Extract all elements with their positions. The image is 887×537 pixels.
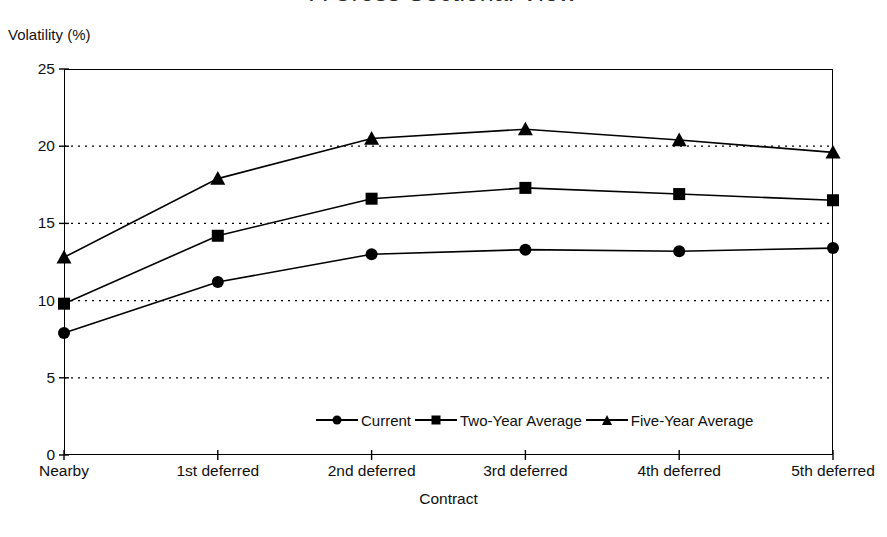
legend-label: Two-Year Average: [457, 412, 586, 429]
circle-marker-icon: [316, 413, 358, 427]
data-point: [519, 182, 531, 194]
chart-legend: CurrentTwo-Year AverageFive-Year Average: [314, 409, 759, 431]
plot-area: [64, 69, 833, 455]
x-axis-title: Contract: [64, 490, 833, 508]
x-axis-tick-labels: Nearby1st deferred2nd deferred3rd deferr…: [0, 462, 887, 486]
data-point: [212, 230, 224, 242]
data-point: [212, 276, 224, 288]
y-tick-label: 25: [38, 60, 55, 78]
x-tick-label: 4th deferred: [637, 462, 721, 480]
x-tick-label: 3rd deferred: [483, 462, 567, 480]
legend-label: Five-Year Average: [628, 412, 758, 429]
data-point: [366, 248, 378, 260]
y-tick-label: 15: [38, 214, 55, 232]
y-tick-label: 10: [38, 292, 55, 310]
y-axis-title: Volatility (%): [8, 26, 91, 43]
data-point: [673, 188, 685, 200]
legend-item-current: Current: [316, 412, 415, 429]
chart-title: A Cross Sectional View: [0, 0, 887, 7]
y-tick-label: 5: [46, 369, 55, 387]
legend-item-five-year-average: Five-Year Average: [586, 412, 758, 429]
data-series-layer: [64, 69, 833, 455]
data-point: [58, 298, 70, 310]
legend-label: Current: [358, 412, 415, 429]
legend-item-two-year-average: Two-Year Average: [415, 412, 586, 429]
data-point: [673, 245, 685, 257]
x-tick-label: 5th deferred: [791, 462, 875, 480]
data-point: [518, 122, 533, 136]
data-point: [57, 250, 72, 264]
data-point: [58, 327, 70, 339]
series-current: [58, 242, 839, 339]
y-axis-tick-labels: 0510152025: [0, 69, 55, 455]
x-tick-label: 1st deferred: [176, 462, 259, 480]
x-tick-label: Nearby: [39, 462, 89, 480]
chart-page: A Cross Sectional View Volatility (%) 05…: [0, 0, 887, 537]
data-point: [827, 194, 839, 206]
triangle-marker-icon: [586, 413, 628, 427]
y-tick-label: 20: [38, 137, 55, 155]
data-point: [827, 242, 839, 254]
square-marker-icon: [415, 413, 457, 427]
data-point: [366, 193, 378, 205]
x-tick-label: 2nd deferred: [328, 462, 416, 480]
data-point: [519, 244, 531, 256]
